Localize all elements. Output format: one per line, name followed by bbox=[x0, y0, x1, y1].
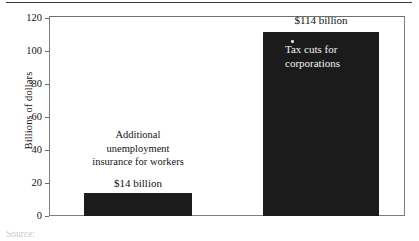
annotation-corporate-tax-cuts: Tax cuts for corporations bbox=[285, 42, 385, 70]
y-tick-label-20: 20 bbox=[16, 178, 42, 189]
annotation-line-1: Additional bbox=[72, 128, 204, 142]
value-label-unemployment-insurance: $14 billion bbox=[80, 177, 196, 189]
annotation-line-3: insurance for workers bbox=[72, 155, 204, 169]
y-tick-mark-0 bbox=[45, 216, 49, 217]
source-caption-text: Source: bbox=[6, 231, 35, 239]
annotation-line-2: corporations bbox=[285, 56, 385, 70]
y-tick-label-40: 40 bbox=[16, 145, 42, 156]
y-tick-label-80: 80 bbox=[16, 79, 42, 90]
y-tick-label-0: 0 bbox=[16, 211, 42, 222]
annotation-unemployment-insurance: Additional unemployment insurance for wo… bbox=[72, 128, 204, 169]
y-tick-label-60: 60 bbox=[16, 112, 42, 123]
y-tick-label-100: 100 bbox=[16, 46, 42, 57]
value-label-corporate-tax-cuts: $114 billion bbox=[261, 14, 381, 26]
annotation-line-1: Tax cuts for bbox=[285, 42, 385, 56]
annotation-line-2: unemployment bbox=[72, 142, 204, 156]
bar-unemployment-insurance bbox=[84, 193, 192, 216]
y-tick-label-120: 120 bbox=[16, 13, 42, 24]
source-caption: Source: bbox=[6, 231, 306, 241]
bar-chart-figure: Billions of dollars 120 100 80 60 40 20 … bbox=[0, 0, 419, 241]
